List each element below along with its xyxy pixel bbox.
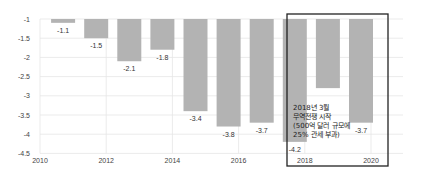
bar	[316, 19, 340, 88]
value-label: -1.8	[156, 54, 168, 61]
annotation-line: 무역전쟁 시작	[293, 113, 350, 122]
y-axis: -1-1.5-2-2.5-3-3.5-4-4.5	[18, 16, 30, 157]
bar	[51, 19, 75, 23]
x-tick-label: 2020	[363, 157, 379, 164]
bar-chart: -1-1.5-2-2.5-3-3.5-4-4.5 201020122014201…	[0, 0, 426, 177]
value-label: -3.8	[223, 131, 235, 138]
y-tick-label: -3.5	[18, 112, 30, 119]
x-tick-label: 2012	[98, 157, 114, 164]
bar	[117, 19, 141, 61]
x-tick-label: 2014	[165, 157, 181, 164]
bar	[349, 19, 373, 123]
y-tick-label: -2	[24, 54, 30, 61]
value-label: -1.1	[57, 27, 69, 34]
y-tick-label: -4.5	[18, 150, 30, 157]
bar	[150, 19, 174, 50]
value-label: -1.5	[90, 42, 102, 49]
value-label: -3.7	[256, 127, 268, 134]
x-axis: 201020122014201620182020	[32, 157, 379, 164]
annotation-line: 25% 관세 부과)	[293, 131, 350, 140]
value-label: -4.2	[289, 146, 301, 153]
y-tick-label: -4	[24, 131, 30, 138]
y-tick-label: -1.5	[18, 35, 30, 42]
annotation-line: 2018년 3월	[293, 104, 350, 113]
value-label: -2.1	[123, 65, 135, 72]
bar	[250, 19, 274, 123]
value-label: -3.4	[189, 115, 201, 122]
y-tick-label: -2.5	[18, 73, 30, 80]
y-tick-label: -3	[24, 92, 30, 99]
x-tick-label: 2018	[297, 157, 313, 164]
value-label: -3.7	[355, 127, 367, 134]
x-tick-label: 2010	[32, 157, 48, 164]
x-tick-label: 2016	[231, 157, 247, 164]
annotation-line: (500억 달러 규모에	[293, 122, 350, 131]
bar	[217, 19, 241, 127]
y-tick-label: -1	[24, 16, 30, 23]
trade-war-annotation: 2018년 3월 무역전쟁 시작 (500억 달러 규모에 25% 관세 부과)	[293, 104, 350, 140]
bar	[184, 19, 208, 111]
bar	[84, 19, 108, 38]
